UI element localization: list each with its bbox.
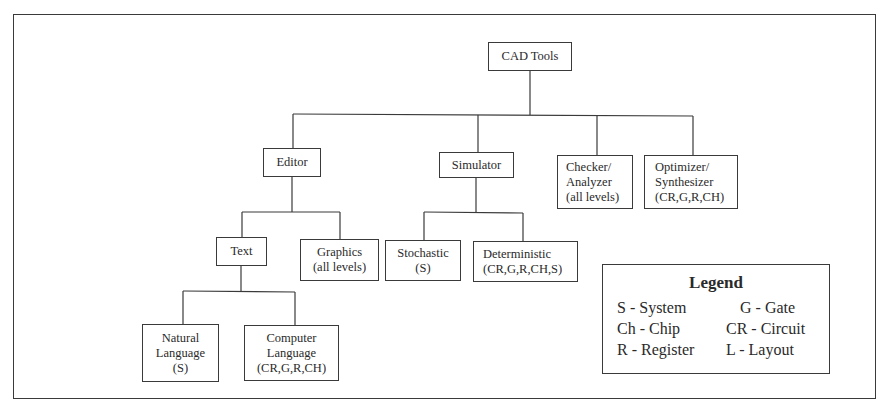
node-label: (all levels) — [566, 190, 619, 205]
node-label: Deterministic — [483, 247, 551, 262]
node-label: CAD Tools — [502, 49, 559, 64]
legend-item-layout: L - Layout — [726, 341, 794, 359]
legend-title: Legend — [603, 273, 829, 293]
node-optimizer-synthesizer: Optimizer/ Synthesizer (CR,G,R,CH) — [644, 155, 738, 209]
node-label: Synthesizer — [655, 175, 713, 190]
node-text: Text — [216, 237, 267, 266]
node-label: (S) — [415, 261, 430, 276]
legend-box: Legend S - System G - Gate Ch - Chip CR … — [602, 264, 830, 374]
legend-item-system: S - System — [617, 299, 686, 317]
node-cad-tools: CAD Tools — [488, 42, 572, 71]
node-checker-analyzer: Checker/ Analyzer (all levels) — [557, 155, 633, 209]
node-label: Stochastic — [397, 246, 448, 261]
node-label: Language — [267, 346, 316, 361]
node-label: Text — [230, 244, 252, 259]
node-label: Editor — [276, 155, 307, 170]
node-label: Language — [156, 346, 205, 361]
node-deterministic: Deterministic (CR,G,R,CH,S) — [473, 241, 578, 282]
node-label: Natural — [162, 331, 199, 346]
node-graphics: Graphics (all levels) — [300, 239, 379, 281]
node-stochastic: Stochastic (S) — [385, 240, 461, 281]
node-editor: Editor — [263, 148, 321, 177]
node-label: (S) — [173, 361, 188, 376]
node-label: Simulator — [452, 158, 501, 173]
legend-item-gate: G - Gate — [740, 299, 795, 317]
node-label: (CR,G,R,CH,S) — [483, 262, 562, 277]
node-label: Checker/ — [566, 160, 611, 175]
node-label: Analyzer — [566, 175, 612, 190]
legend-item-circuit: CR - Circuit — [726, 320, 805, 338]
node-label: Graphics — [317, 245, 362, 260]
node-natural-language: Natural Language (S) — [142, 324, 219, 382]
node-label: Optimizer/ — [655, 160, 709, 175]
node-label: (CR,G,R,CH) — [257, 361, 326, 376]
node-label: Computer — [267, 331, 317, 346]
node-label: (all levels) — [313, 260, 366, 275]
legend-item-register: R - Register — [617, 341, 694, 359]
legend-item-chip: Ch - Chip — [617, 320, 680, 338]
node-simulator: Simulator — [439, 152, 514, 178]
node-label: (CR,G,R,CH) — [655, 190, 724, 205]
node-computer-language: Computer Language (CR,G,R,CH) — [244, 325, 339, 381]
